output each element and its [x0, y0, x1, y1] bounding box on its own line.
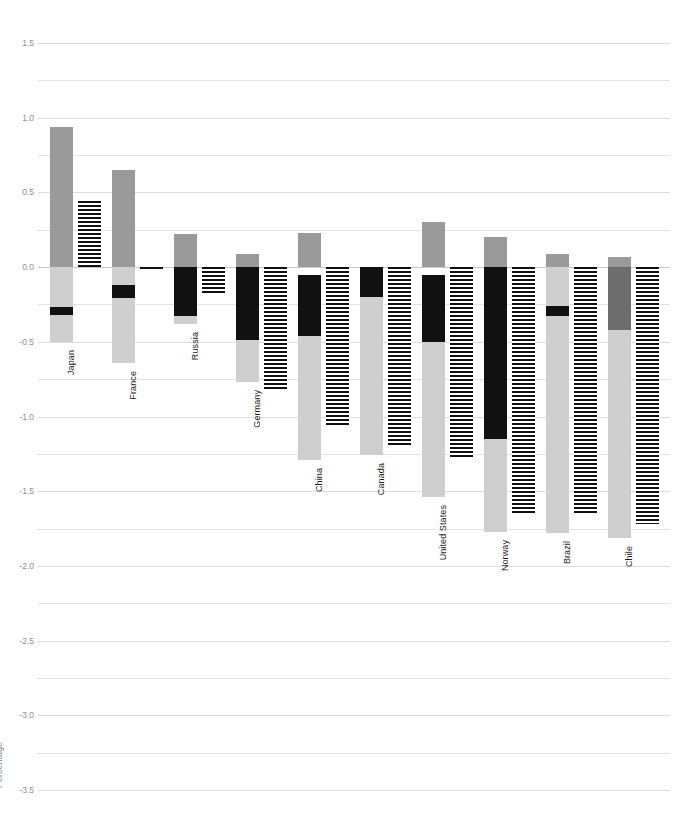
- bar-segment: [112, 267, 135, 285]
- bar-segment: [546, 316, 569, 533]
- net-total-bar: [78, 201, 101, 267]
- bar-segment: [422, 275, 445, 342]
- y-tick-label: -0.5: [0, 337, 34, 347]
- bar-segment: [360, 297, 383, 455]
- y-tick-label: -3.0: [0, 710, 34, 720]
- bar-segment: [546, 254, 569, 267]
- y-tick-label: 0.0: [0, 262, 34, 272]
- bar-segment: [546, 267, 569, 306]
- bar-segment: [236, 340, 259, 382]
- gridline: [38, 641, 670, 642]
- net-total-bar: [512, 267, 535, 514]
- category-label: China: [314, 468, 324, 492]
- net-total-bar: [450, 267, 473, 457]
- gridline: [38, 155, 670, 156]
- gridline: [38, 566, 670, 567]
- net-total-bar: [636, 267, 659, 524]
- bar-segment: [174, 234, 197, 267]
- gridline: [38, 715, 670, 716]
- y-axis-title: Percentage: [0, 742, 4, 788]
- net-total-bar: [326, 267, 349, 427]
- bar-segment: [236, 254, 259, 267]
- bar-segment: [112, 298, 135, 362]
- gridline: [38, 678, 670, 679]
- gridline: [38, 790, 670, 791]
- bar-segment: [298, 275, 321, 336]
- bar-segment: [484, 267, 507, 439]
- bar-segment: [422, 342, 445, 497]
- gridline: [38, 529, 670, 530]
- bar-segment: [174, 316, 197, 323]
- bar-segment: [484, 237, 507, 267]
- y-tick-label: -1.0: [0, 412, 34, 422]
- bar-segment: [112, 170, 135, 267]
- y-tick-label: -2.0: [0, 561, 34, 571]
- bar-segment: [50, 315, 73, 342]
- net-total-bar: [140, 267, 163, 270]
- plot-area: JapanFranceRussiaGermanyChinaCanadaUnite…: [38, 0, 692, 820]
- net-total-bar: [388, 267, 411, 446]
- net-total-bar: [574, 267, 597, 514]
- y-tick-label: -1.5: [0, 486, 34, 496]
- bar-segment: [50, 127, 73, 267]
- bar-segment: [360, 267, 383, 297]
- y-tick-label: 1.0: [0, 113, 34, 123]
- bar-segment: [174, 267, 197, 316]
- net-total-bar: [264, 267, 287, 391]
- gridline: [38, 603, 670, 604]
- bar-segment: [608, 267, 631, 330]
- bar-segment: [298, 336, 321, 460]
- y-tick-label: 1.5: [0, 38, 34, 48]
- bar-segment: [422, 222, 445, 267]
- bar-segment: [112, 285, 135, 298]
- category-label: Germany: [252, 390, 262, 428]
- category-label: Japan: [66, 350, 76, 375]
- category-label: United States: [438, 505, 448, 560]
- category-label: Norway: [500, 540, 510, 571]
- bar-segment: [50, 307, 73, 314]
- bar-segment: [236, 267, 259, 340]
- bar-segment: [546, 306, 569, 316]
- gridline: [38, 80, 670, 81]
- y-tick-label: 0.5: [0, 187, 34, 197]
- category-label: Canada: [376, 463, 386, 495]
- chart-root: JapanFranceRussiaGermanyChinaCanadaUnite…: [0, 0, 692, 820]
- gridline: [38, 118, 670, 119]
- category-label: Brazil: [562, 541, 572, 564]
- gridline: [38, 43, 670, 44]
- category-label: Russia: [190, 332, 200, 360]
- y-tick-label: -3.5: [0, 785, 34, 795]
- bar-segment: [484, 439, 507, 532]
- bar-segment: [608, 257, 631, 267]
- gridline: [38, 753, 670, 754]
- y-tick-label: -2.5: [0, 636, 34, 646]
- category-label: France: [128, 371, 138, 400]
- category-label: Chile: [624, 546, 634, 567]
- net-total-bar: [202, 267, 225, 294]
- bar-segment: [50, 267, 73, 307]
- bar-segment: [608, 330, 631, 538]
- bar-segment: [298, 233, 321, 267]
